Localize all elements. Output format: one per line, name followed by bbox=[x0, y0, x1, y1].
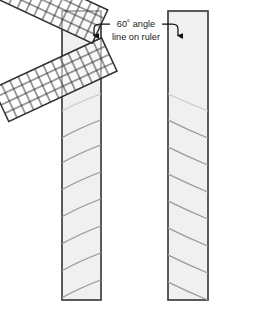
angle-label-line2: line on ruler bbox=[112, 32, 160, 42]
canvas-background bbox=[0, 0, 271, 311]
ruler-angle-diagram: 60˚ angle line on ruler bbox=[0, 0, 271, 311]
diagram-stage: 60˚ angle line on ruler bbox=[0, 0, 271, 311]
right-board-body bbox=[168, 11, 208, 300]
angle-label-line1: 60˚ angle bbox=[117, 19, 155, 29]
right-board bbox=[164, 11, 213, 302]
